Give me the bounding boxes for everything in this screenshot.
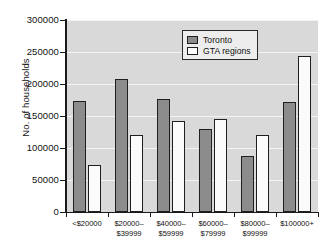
bar-toronto — [157, 99, 171, 212]
gridline — [66, 116, 318, 117]
x-tick-label: $100000+ — [270, 219, 324, 229]
x-tick-mark — [192, 212, 193, 217]
legend-swatch-toronto-icon — [187, 36, 198, 44]
y-tick-label: 200000 — [27, 78, 59, 89]
y-tick-label: 150000 — [27, 110, 59, 121]
bar-gta-regions — [130, 135, 144, 212]
y-tick-mark — [60, 148, 65, 149]
bar-toronto — [283, 102, 297, 212]
x-tick-mark — [234, 212, 235, 217]
x-tick-mark — [150, 212, 151, 217]
gridline — [66, 180, 318, 181]
y-tick-mark — [60, 52, 65, 53]
bar-toronto — [241, 156, 255, 212]
x-tick-mark — [108, 212, 109, 217]
bar-gta-regions — [298, 56, 312, 212]
y-tick-mark — [60, 212, 65, 213]
bar-toronto — [115, 79, 129, 212]
gridline — [66, 84, 318, 85]
y-tick-label: 300000 — [27, 14, 59, 25]
bar-chart: No. of households 0500001000001500002000… — [0, 0, 331, 249]
bar-toronto — [199, 129, 213, 212]
y-tick-label: 50000 — [32, 174, 59, 185]
bar-gta-regions — [88, 165, 102, 212]
legend-label: GTA regions — [203, 46, 251, 56]
y-axis-line — [65, 19, 67, 213]
legend-item: Toronto — [187, 34, 251, 45]
bar-gta-regions — [172, 121, 186, 212]
legend-item: GTA regions — [187, 45, 251, 56]
x-tick-mark — [66, 212, 67, 217]
x-tick-mark — [276, 212, 277, 217]
legend-swatch-gta-icon — [187, 47, 198, 55]
bar-toronto — [73, 101, 87, 212]
bar-gta-regions — [214, 119, 228, 212]
bar-gta-regions — [256, 135, 270, 212]
chart-legend: TorontoGTA regions — [182, 30, 258, 60]
y-tick-label: 250000 — [27, 46, 59, 57]
y-tick-mark — [60, 116, 65, 117]
y-tick-mark — [60, 20, 65, 21]
gridline — [66, 148, 318, 149]
y-tick-label: 100000 — [27, 142, 59, 153]
y-tick-mark — [60, 84, 65, 85]
y-tick-mark — [60, 180, 65, 181]
x-tick-mark — [318, 212, 319, 217]
legend-label: Toronto — [203, 35, 232, 45]
y-tick-label: 0 — [54, 206, 59, 217]
gridline — [66, 20, 318, 21]
